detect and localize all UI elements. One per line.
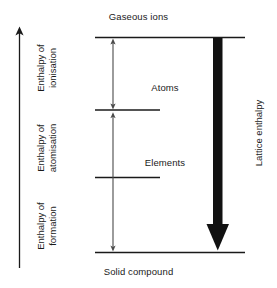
label-enthalpy-of-formation: Enthalpy of formation — [35, 184, 58, 268]
label-enthalpy-of-atomisation-line1: Enthalpy of — [35, 104, 47, 192]
label-enthalpy-of-ionisation: Enthalpy of ionisation — [35, 28, 58, 108]
level-label-elements: Elements — [125, 157, 205, 168]
label-enthalpy-of-formation-line2: formation — [47, 184, 59, 268]
label-enthalpy-of-formation-line1: Enthalpy of — [35, 184, 47, 268]
label-enthalpy-of-atomisation-line2: atomisation — [47, 104, 59, 192]
label-enthalpy-of-ionisation-line1: Enthalpy of — [35, 28, 47, 108]
level-label-atoms: Atoms — [125, 82, 205, 93]
label-lattice-enthalpy-text: Lattice enthalpy — [253, 78, 265, 188]
label-enthalpy-of-atomisation: Enthalpy of atomisation — [35, 104, 58, 192]
level-label-gaseous-ions: Gaseous ions — [0, 11, 277, 22]
energy-axis-arrow — [15, 27, 23, 269]
born-haber-cycle-diagram: Gaseous ions Atoms Elements Solid compou… — [0, 0, 277, 288]
atomisation-formation-double-arrow — [110, 112, 115, 251]
label-lattice-enthalpy: Lattice enthalpy — [253, 78, 265, 188]
lattice-enthalpy-arrow — [207, 38, 230, 251]
label-enthalpy-of-ionisation-line2: ionisation — [47, 28, 59, 108]
ionisation-double-arrow — [110, 39, 115, 110]
